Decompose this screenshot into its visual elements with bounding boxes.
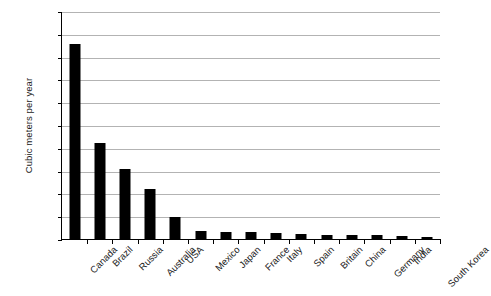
x-tick-label: Russia (137, 244, 165, 272)
x-label-wrap: Japan (236, 244, 262, 270)
x-axis-labels: CanadaBrazilRussiaAustraliaUSAMexicoJapa… (62, 244, 440, 296)
bar (145, 189, 156, 240)
bars (62, 12, 440, 240)
y-axis-title: Cubic meters per year (23, 46, 34, 206)
x-label-wrap: South Korea (446, 244, 491, 289)
x-label-wrap: Spain (312, 244, 337, 269)
bar (170, 217, 181, 240)
x-label-wrap: Mexico (212, 244, 241, 273)
bar-slot (390, 12, 415, 240)
bar-slot (289, 12, 314, 240)
x-axis-line (61, 239, 441, 240)
bar (119, 169, 130, 240)
bar (94, 143, 105, 240)
bar-slot (339, 12, 364, 240)
bar-slot (213, 12, 238, 240)
bar-slot (62, 12, 87, 240)
x-tick-label: South Korea (446, 244, 491, 289)
x-label-wrap: Russia (137, 244, 165, 272)
bar-slot (112, 12, 137, 240)
x-tick-label: Japan (236, 244, 262, 270)
x-tick-label: Spain (312, 244, 337, 269)
bar-slot (238, 12, 263, 240)
x-tick-label: Britain (337, 244, 364, 271)
bar-slot (364, 12, 389, 240)
bar-slot (415, 12, 440, 240)
bar (69, 44, 80, 240)
x-tick-mark (440, 240, 441, 244)
bar-slot (163, 12, 188, 240)
x-tick-label: Mexico (212, 244, 241, 273)
bar-slot (188, 12, 213, 240)
bar-slot (264, 12, 289, 240)
x-label-wrap: China (362, 244, 387, 269)
x-tick-label: China (362, 244, 387, 269)
bar-slot (87, 12, 112, 240)
bar-slot (314, 12, 339, 240)
x-label-wrap: Britain (337, 244, 364, 271)
plot-area: 010,00020,00030,00040,00050,00060,00070,… (62, 12, 440, 240)
bar-slot (138, 12, 163, 240)
